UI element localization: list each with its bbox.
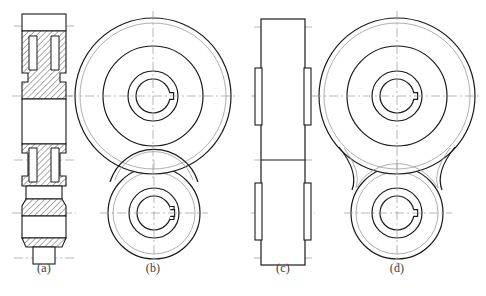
- view-b-side: [68, 11, 238, 266]
- view-a-upper-rim: [22, 14, 66, 31]
- view-label-c: (c): [276, 261, 290, 276]
- view-c-body: [261, 19, 305, 265]
- technical-drawing-canvas: [0, 0, 486, 296]
- view-a-upper-web: [22, 31, 66, 99]
- drawing-sheet: (a) (b) (c) (d): [0, 0, 486, 296]
- view-a-lower-step: [26, 186, 62, 199]
- view-label-d: (d): [390, 261, 405, 276]
- view-d-side-with-web: [312, 11, 482, 266]
- view-a-lower-band: [22, 216, 66, 238]
- view-a-bottom-collar: [22, 238, 66, 247]
- view-label-b: (b): [146, 261, 161, 276]
- view-label-a: (a): [37, 261, 51, 276]
- view-a-middle-collar: [22, 144, 66, 186]
- view-a-shaft-body: [22, 99, 66, 144]
- view-a-lower-hub-hatched: [22, 199, 66, 216]
- view-a-section: [12, 14, 76, 264]
- view-c-outline: [251, 19, 315, 265]
